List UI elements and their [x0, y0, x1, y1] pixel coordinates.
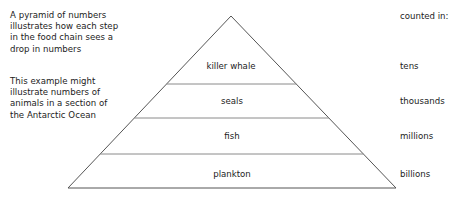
tier-label-fish: fish	[224, 131, 239, 141]
count-label-tens: tens	[400, 61, 419, 71]
counted-in-heading: counted in:	[400, 11, 448, 21]
tier-label-killer-whale: killer whale	[206, 61, 255, 71]
tier-label-seals: seals	[221, 96, 243, 106]
pyramid-of-numbers-diagram: A pyramid of numbers illustrates how eac…	[0, 0, 465, 203]
count-label-millions: millions	[400, 131, 433, 141]
count-label-thousands: thousands	[400, 96, 445, 106]
count-label-billions: billions	[400, 169, 430, 179]
tier-label-plankton: plankton	[213, 169, 251, 179]
